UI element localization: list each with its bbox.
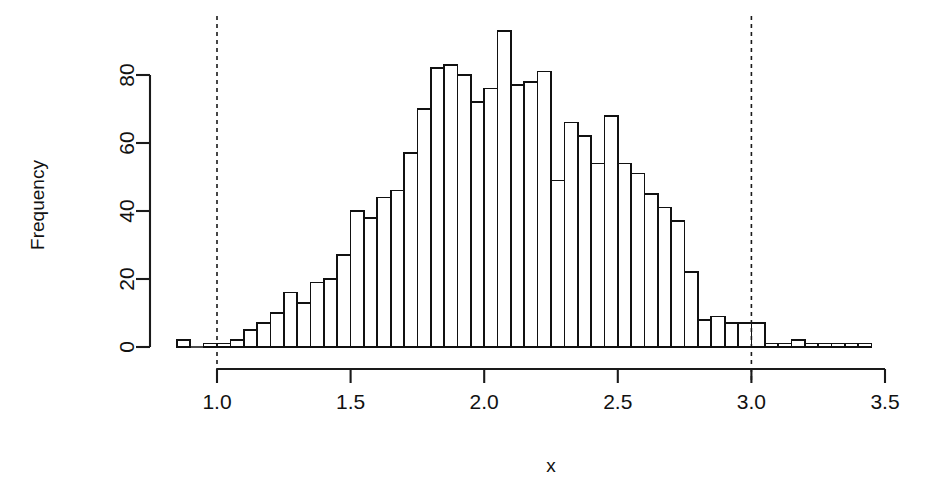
histogram-bar [444,65,457,347]
x-axis-title: x [546,455,556,476]
histogram-bar [498,31,511,347]
histogram-bar [618,163,631,347]
histogram-bar [484,89,497,347]
histogram-bar [591,163,604,347]
y-tick-label: 40 [115,199,138,222]
histogram-bar [297,303,310,347]
x-tick-label: 2.5 [603,390,632,413]
histogram-bar [257,323,270,347]
histogram-bar [658,208,671,347]
histogram-bar [337,255,350,347]
histogram-bar [551,180,564,347]
x-axis [177,347,885,383]
histogram-bars [177,31,872,347]
histogram-bar [738,323,751,347]
histogram-bar [725,323,738,347]
y-axis [136,75,150,347]
histogram-bar [711,316,724,347]
histogram-bar [364,218,377,347]
histogram-bar [177,340,190,347]
x-tick-label: 1.5 [336,390,365,413]
histogram-bar [284,293,297,347]
y-tick-label: 60 [115,131,138,154]
y-tick-label: 80 [115,63,138,86]
histogram-bar [230,340,243,347]
histogram-bar [564,123,577,347]
histogram-bar [471,102,484,347]
histogram-bar [270,313,283,347]
x-tick-labels: 1.01.52.02.53.03.5 [202,390,899,413]
histogram-bar [524,82,537,347]
histogram-bar [791,340,804,347]
y-axis-title: Frequency [27,160,48,250]
histogram-figure: 020406080 1.01.52.02.53.03.5 Frequency x [0,0,946,499]
x-tick-label: 1.0 [202,390,231,413]
histogram-bar [578,136,591,347]
histogram-bar [698,320,711,347]
histogram-bar [377,197,390,347]
histogram-bar [457,75,470,347]
histogram-bar [511,85,524,347]
histogram-bar [324,279,337,347]
histogram-bar [391,191,404,347]
histogram-bar [351,211,364,347]
histogram-bar [631,174,644,347]
histogram-bar [685,272,698,347]
x-tick-label: 3.5 [870,390,899,413]
histogram-bar [751,323,764,347]
histogram-bar [645,194,658,347]
histogram-bar [604,116,617,347]
x-tick-label: 3.0 [737,390,766,413]
histogram-bar [538,72,551,347]
histogram-bar [244,330,257,347]
histogram-bar [404,153,417,347]
histogram-bar [431,68,444,347]
histogram-bar [671,221,684,347]
histogram-bar [417,109,430,347]
y-tick-labels: 020406080 [115,63,138,353]
y-tick-label: 0 [115,341,138,353]
histogram-plot-area: 020406080 1.01.52.02.53.03.5 Frequency x [0,0,946,499]
y-tick-label: 20 [115,267,138,290]
x-tick-label: 2.0 [470,390,499,413]
histogram-bar [311,282,324,347]
